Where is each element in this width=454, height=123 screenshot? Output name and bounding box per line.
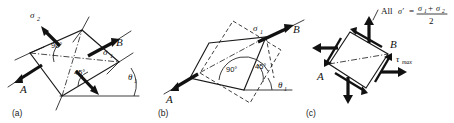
- panel-a-sigma1-subscript: 1: [110, 53, 113, 59]
- panel-c-point-a-label: A: [316, 70, 324, 82]
- panel-a-theta-label: θ: [128, 72, 133, 82]
- panel-a-caption: (a): [12, 108, 23, 118]
- panel-a-point-b-label: B: [116, 36, 123, 48]
- stress-element-figure: σ 2 σ 1 B A 90° 45° θ 1 (a): [0, 0, 454, 123]
- panel-a-theta-subscript: 1: [134, 78, 137, 84]
- panel-c-point-b-label: B: [390, 38, 397, 50]
- panel-c-formula-sigma-prime: σ′: [398, 7, 404, 16]
- panel-a-point-a-label: A: [19, 83, 27, 95]
- panel-a-angle-45-label: 45°: [74, 68, 85, 77]
- panel-c-formula-equals: =: [409, 6, 414, 16]
- panel-c-formula-prefix: All: [381, 6, 393, 16]
- panel-c-caption: (c): [306, 108, 316, 118]
- panel-b-angle-45-label: 45°: [255, 62, 266, 71]
- panel-a-sigma2-label: σ: [30, 10, 35, 20]
- panel-a-angle-90-label: 90°: [51, 41, 62, 50]
- panel-c-formula-denominator: 2: [429, 16, 434, 26]
- panel-c-formula-plus: +: [428, 3, 433, 13]
- panel-b-theta-label: θ: [278, 80, 283, 90]
- panel-b-caption: (b): [158, 108, 169, 118]
- panel-b-sigma1-label: σ: [253, 23, 258, 33]
- panel-b-sigma1-subscript: 1: [260, 29, 263, 35]
- figure-canvas: σ 2 σ 1 B A 90° 45° θ 1 (a): [0, 0, 454, 123]
- panel-b-point-a-label: A: [165, 93, 173, 105]
- panel-b-theta-subscript: 1: [284, 86, 287, 92]
- panel-a-sigma2-subscript: 2: [37, 16, 40, 22]
- panel-b-point-b-label: B: [293, 23, 300, 35]
- panel-c-formula-numerator-sigma1-subscript: 1: [424, 8, 427, 14]
- panel-b-angle-90-label: 90°: [226, 65, 237, 74]
- panel-c-tau-max-subscript: max: [402, 59, 412, 65]
- panel-c-formula-numerator-sigma2-subscript: 2: [442, 8, 445, 14]
- panel-a-sigma1-label: σ: [103, 47, 108, 57]
